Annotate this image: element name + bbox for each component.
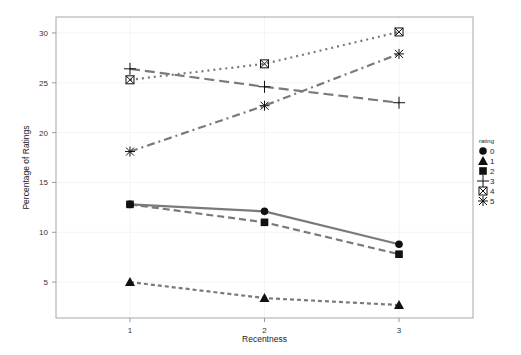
legend: rating 012345 <box>477 138 495 206</box>
legend-label: 2 <box>490 167 495 176</box>
data-point-0 <box>261 208 269 216</box>
data-point-0 <box>395 240 403 248</box>
y-tick-label: 15 <box>39 178 48 187</box>
data-point-3 <box>124 63 136 75</box>
legend-item-0: 0 <box>479 147 495 156</box>
legend-label: 5 <box>490 197 495 206</box>
legend-item-4: 4 <box>479 187 495 196</box>
chart: 51015202530 123 Recentness Percentage of… <box>0 0 521 355</box>
y-tick-label: 5 <box>44 278 49 287</box>
data-point-2 <box>126 201 134 209</box>
y-axis: 51015202530 <box>39 29 56 287</box>
y-tick-label: 30 <box>39 29 48 38</box>
legend-item-3: 3 <box>477 175 495 187</box>
grid <box>56 17 473 318</box>
legend-item-1: 1 <box>478 156 495 166</box>
data-point-2 <box>395 250 403 258</box>
x-tick-label: 3 <box>397 326 402 335</box>
legend-symbol-0 <box>479 147 487 155</box>
legend-symbol-2 <box>479 167 487 175</box>
data-point-5 <box>125 147 135 157</box>
y-tick-label: 20 <box>39 129 48 138</box>
data-point-2 <box>261 219 269 227</box>
legend-item-5: 5 <box>478 196 495 206</box>
legend-symbol-3 <box>477 175 489 187</box>
data-point-5 <box>394 49 404 59</box>
legend-label: 3 <box>490 177 495 186</box>
data-point-5 <box>260 101 270 111</box>
legend-item-2: 2 <box>479 167 495 176</box>
legend-symbol-5 <box>478 196 488 206</box>
x-axis: 123 <box>128 318 402 335</box>
x-tick-label: 1 <box>128 326 133 335</box>
x-axis-title: Recentness <box>242 334 287 344</box>
legend-label: 1 <box>490 157 495 166</box>
y-tick-label: 10 <box>39 228 48 237</box>
legend-symbol-4 <box>479 187 487 195</box>
y-axis-title: Percentage of Ratings <box>21 125 31 209</box>
y-tick-label: 25 <box>39 79 48 88</box>
data-point-1 <box>260 293 270 302</box>
legend-title: rating <box>479 138 494 144</box>
legend-symbol-1 <box>478 156 488 165</box>
data-point-3 <box>393 97 405 109</box>
legend-label: 0 <box>490 147 495 156</box>
legend-label: 4 <box>490 187 495 196</box>
